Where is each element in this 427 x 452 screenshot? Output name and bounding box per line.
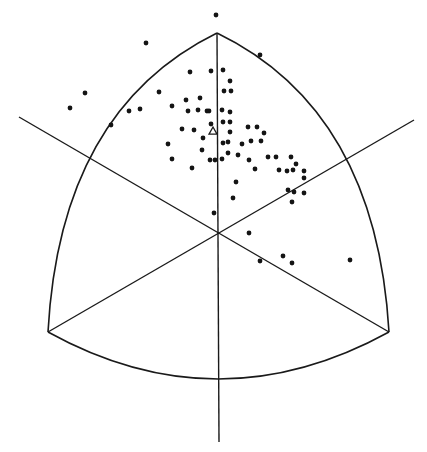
data-point bbox=[253, 167, 258, 172]
data-point bbox=[302, 169, 307, 174]
data-point bbox=[286, 188, 291, 193]
data-point bbox=[127, 109, 132, 114]
data-point bbox=[220, 157, 225, 162]
data-point bbox=[240, 142, 245, 147]
right-arc bbox=[217, 33, 389, 332]
data-point bbox=[291, 168, 296, 173]
data-point bbox=[138, 107, 143, 112]
right-diagonal bbox=[48, 120, 414, 332]
data-point bbox=[258, 259, 263, 264]
data-point bbox=[192, 128, 197, 133]
data-point bbox=[196, 108, 201, 113]
data-point bbox=[209, 122, 214, 127]
data-point bbox=[226, 140, 231, 145]
diagram-canvas bbox=[0, 0, 427, 452]
data-point bbox=[213, 158, 218, 163]
data-point bbox=[186, 109, 191, 114]
data-point bbox=[170, 104, 175, 109]
data-point bbox=[226, 151, 231, 156]
data-point bbox=[262, 131, 267, 136]
axis-lines bbox=[19, 33, 414, 442]
data-point bbox=[222, 89, 227, 94]
data-point bbox=[302, 191, 307, 196]
data-point bbox=[212, 211, 217, 216]
data-point bbox=[209, 69, 214, 74]
data-point bbox=[236, 153, 241, 158]
data-point bbox=[144, 41, 149, 46]
data-point bbox=[157, 90, 162, 95]
stereographic-plot bbox=[0, 0, 427, 452]
data-point bbox=[302, 176, 307, 181]
data-point bbox=[228, 79, 233, 84]
data-point bbox=[83, 91, 88, 96]
data-point bbox=[255, 125, 260, 130]
data-point bbox=[274, 155, 279, 160]
data-point bbox=[289, 155, 294, 160]
data-point bbox=[285, 169, 290, 174]
data-point bbox=[246, 125, 251, 130]
data-point bbox=[292, 190, 297, 195]
data-point bbox=[294, 162, 299, 167]
data-point bbox=[200, 148, 205, 153]
data-point bbox=[348, 258, 353, 263]
data-point bbox=[281, 254, 286, 259]
data-point bbox=[247, 158, 252, 163]
data-point bbox=[208, 158, 213, 163]
data-point bbox=[214, 13, 219, 18]
data-point bbox=[220, 108, 225, 113]
data-point bbox=[266, 155, 271, 160]
data-point bbox=[170, 157, 175, 162]
data-point bbox=[166, 142, 171, 147]
data-point bbox=[201, 136, 206, 141]
data-point bbox=[290, 200, 295, 205]
data-point bbox=[228, 110, 233, 115]
data-point bbox=[229, 89, 234, 94]
data-point bbox=[221, 120, 226, 125]
data-point bbox=[68, 106, 73, 111]
data-point bbox=[198, 96, 203, 101]
triangle-marker-icon bbox=[209, 127, 217, 134]
vertical-axis bbox=[217, 33, 219, 442]
data-point bbox=[221, 68, 226, 73]
data-point bbox=[184, 98, 189, 103]
data-point bbox=[109, 123, 114, 128]
data-point bbox=[221, 141, 226, 146]
data-point bbox=[180, 127, 185, 132]
data-point bbox=[228, 130, 233, 135]
data-point bbox=[277, 168, 282, 173]
data-point bbox=[231, 196, 236, 201]
data-point bbox=[249, 139, 254, 144]
data-point bbox=[259, 139, 264, 144]
triangle-marker bbox=[209, 127, 217, 134]
data-point bbox=[290, 261, 295, 266]
data-point bbox=[188, 70, 193, 75]
data-point bbox=[234, 180, 239, 185]
data-point bbox=[190, 166, 195, 171]
data-point bbox=[228, 120, 233, 125]
data-point bbox=[247, 231, 252, 236]
data-point bbox=[258, 53, 263, 58]
data-point bbox=[207, 109, 212, 114]
